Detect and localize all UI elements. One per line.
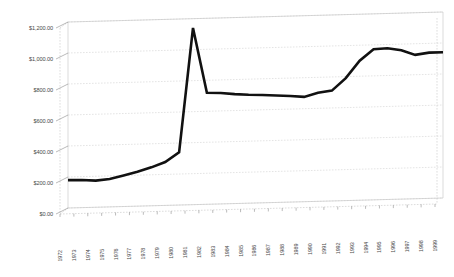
x-tick-label: 1974 xyxy=(85,249,91,261)
x-tick-label: 1995 xyxy=(376,241,382,253)
chart-container: $1,200.00 $1,000.00 $800.00 $600.00 $400… xyxy=(0,0,454,277)
x-axis-labels: 1972197319741975197619771978197919801981… xyxy=(57,240,438,262)
y-axis-ticks xyxy=(56,22,68,214)
x-tick-label: 1975 xyxy=(99,249,105,261)
x-tick-label: 1994 xyxy=(363,242,369,254)
x-tick-label: 1990 xyxy=(307,243,313,255)
chart-frame xyxy=(60,12,443,214)
x-tick-label: 1998 xyxy=(418,240,424,252)
x-tick-label: 1996 xyxy=(390,241,396,253)
x-tick-label: 1973 xyxy=(71,250,77,262)
x-tick-label: 1997 xyxy=(404,241,410,253)
x-tick-label: 1980 xyxy=(168,247,174,259)
y-axis-labels: $1,200.00 $1,000.00 $800.00 $600.00 $400… xyxy=(29,25,53,217)
x-tick-label: 1979 xyxy=(154,247,160,259)
data-series-group xyxy=(68,28,443,181)
y-tick-label: $600.00 xyxy=(33,118,53,124)
x-tick-label: 1993 xyxy=(349,242,355,254)
x-tick-label: 1991 xyxy=(321,243,327,255)
x-tick-label: 1977 xyxy=(126,248,132,260)
x-tick-label: 1989 xyxy=(293,244,299,256)
x-tick-label: 1972 xyxy=(57,250,63,262)
x-tick-label: 1992 xyxy=(335,242,341,254)
x-tick-label: 1978 xyxy=(140,248,146,260)
x-tick-label: 1981 xyxy=(182,247,188,259)
x-tick-label: 1986 xyxy=(251,245,257,257)
y-tick-label: $800.00 xyxy=(33,87,53,93)
x-tick-label: 1987 xyxy=(265,244,271,256)
y-tick-label: $0.00 xyxy=(40,211,54,217)
line-chart: $1,200.00 $1,000.00 $800.00 $600.00 $400… xyxy=(0,0,454,277)
x-tick-label: 1985 xyxy=(238,245,244,257)
x-tick-label: 1982 xyxy=(196,246,202,258)
y-tick-label: $200.00 xyxy=(33,180,53,186)
x-tick-label: 1983 xyxy=(210,246,216,258)
y-tick-label: $1,000.00 xyxy=(29,56,53,62)
x-tick-label: 1976 xyxy=(113,248,119,260)
y-tick-label: $1,200.00 xyxy=(29,25,53,31)
y-tick-label: $400.00 xyxy=(33,149,53,155)
series-line-1 xyxy=(68,28,443,181)
x-tick-label: 1999 xyxy=(432,240,438,252)
x-axis-ticks xyxy=(60,204,435,217)
gridlines xyxy=(68,12,443,208)
x-tick-label: 1984 xyxy=(224,245,230,257)
x-tick-label: 1988 xyxy=(279,244,285,256)
